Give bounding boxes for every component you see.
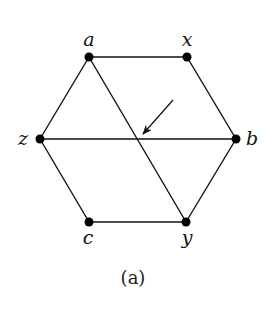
node-label-a: a [83,28,94,50]
pointer-arrow-icon [143,100,173,134]
edges-group [40,57,236,222]
node-a [85,53,94,62]
graph-diagram: axzbcy (a) [0,0,266,311]
edge-y-b [186,139,236,222]
node-label-y: y [181,226,193,248]
node-x [183,53,192,62]
figure-caption: (a) [121,267,146,288]
edge-x-b [187,57,236,139]
labels-group: axzbcy [17,28,258,248]
node-z [36,135,45,144]
node-label-z: z [17,127,29,149]
edge-z-c [40,139,89,222]
edge-a-z [40,57,89,139]
node-label-x: x [182,28,193,50]
node-label-b: b [246,127,258,149]
node-b [232,135,241,144]
node-label-c: c [83,226,94,248]
